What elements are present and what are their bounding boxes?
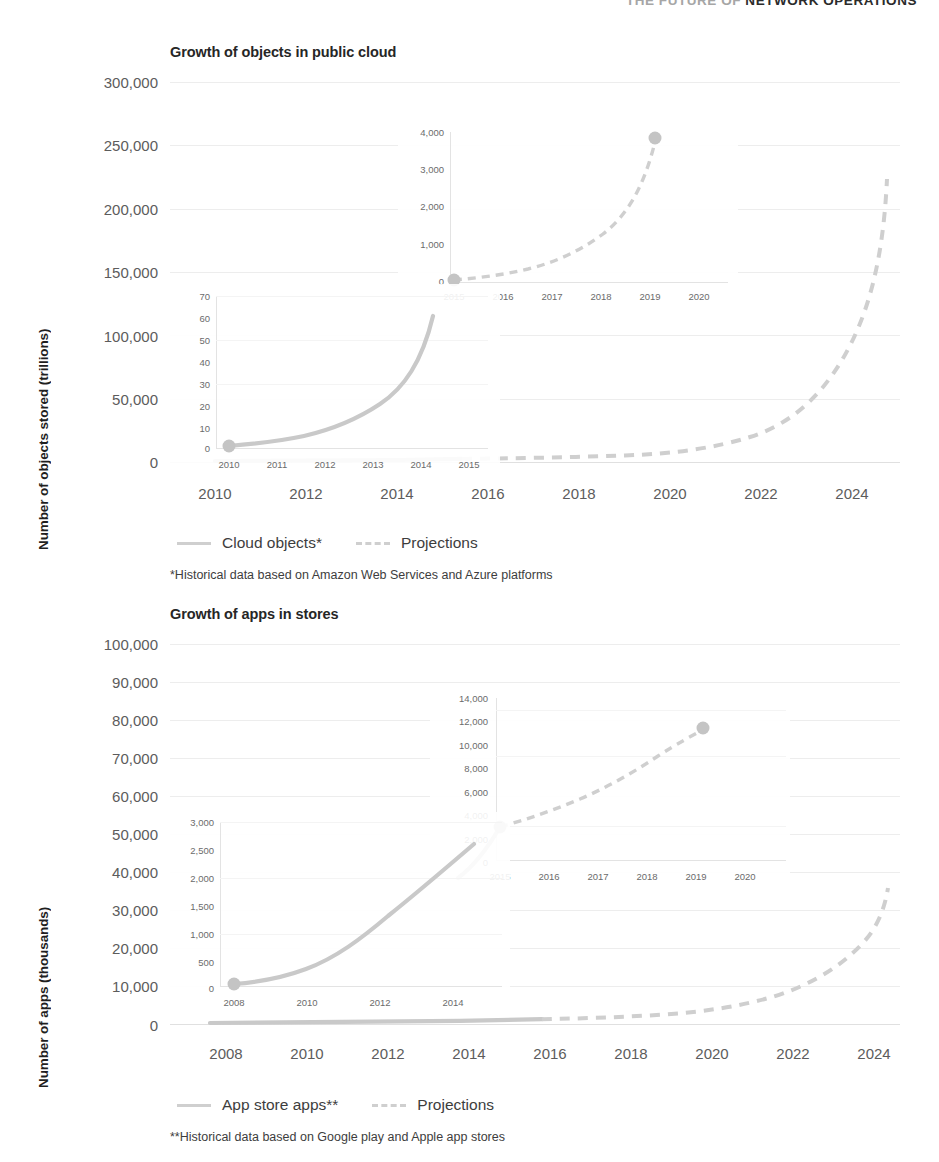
- chart-growth-of-apps: Growth of apps in stores Number of apps …: [0, 598, 939, 1162]
- chart1-legend-item-projections: Projections: [356, 534, 478, 552]
- chart1-inset-inner-marker-start: [223, 440, 236, 453]
- dashed-line-swatch-icon: [372, 1104, 406, 1107]
- chart1-inset-inner-svg: [170, 284, 500, 474]
- chart2-ytick: 60,000: [30, 789, 158, 804]
- chart2-inset-mid-dashed: [500, 730, 702, 827]
- solid-line-swatch-icon: [177, 542, 211, 545]
- chart2-xtick: 2010: [267, 1046, 347, 1061]
- chart1-inset-mid: 4,000 3,000 2,000 1,000 0 2015 2016 2017…: [398, 120, 738, 310]
- chart1-ytick: 50,000: [30, 392, 158, 407]
- dashed-line-swatch-icon: [356, 542, 390, 545]
- chart2-legend-label: Projections: [417, 1096, 494, 1114]
- chart2-xtick: 2022: [753, 1046, 833, 1061]
- chart2-dashed-series: [542, 888, 888, 1019]
- solid-line-swatch-icon: [177, 1104, 211, 1107]
- chart1-inset-mid-marker-end: [649, 132, 662, 145]
- chart2-ytick: 40,000: [30, 865, 158, 880]
- chart1-ytick: 250,000: [30, 138, 158, 153]
- infographic-page: THE FUTURE OF NETWORK OPERATIONS Growth …: [0, 0, 939, 1162]
- chart1-inset-mid-svg: [398, 120, 738, 310]
- chart2-ytick: 10,000: [30, 979, 158, 994]
- chart2-xtick: 2018: [591, 1046, 671, 1061]
- chart2-xtick: 2016: [510, 1046, 590, 1061]
- chart2-inset-inner-svg: [170, 812, 510, 1012]
- chart1-xtick: 2016: [448, 486, 528, 501]
- chart2-footnote: **Historical data based on Google play a…: [170, 1130, 505, 1144]
- chart1-ytick: 300,000: [30, 75, 158, 90]
- chart2-inset-mid-marker-end: [697, 722, 710, 735]
- chart1-inset-inner: 70 60 50 40 30 20 10 0 2010 2011 2012 20…: [170, 284, 500, 474]
- chart1-footnote: *Historical data based on Amazon Web Ser…: [170, 568, 553, 582]
- chart1-legend-label: Projections: [401, 534, 478, 552]
- chart1-legend-label: Cloud objects*: [222, 534, 322, 552]
- chart2-inset-inner-marker-start: [228, 978, 241, 991]
- chart2-inset-inner: 3,000 2,500 2,000 1,500 1,000 500 0 2008…: [170, 812, 510, 1012]
- chart2-legend-label: App store apps**: [222, 1096, 338, 1114]
- running-header: THE FUTURE OF NETWORK OPERATIONS: [0, 0, 939, 8]
- chart2-legend-item-projections: Projections: [372, 1096, 494, 1114]
- chart1-legend-item-cloud-objects: Cloud objects*: [177, 534, 322, 552]
- chart1-xtick: 2022: [721, 486, 801, 501]
- running-header-emphasis: NETWORK OPERATIONS: [745, 0, 917, 8]
- chart1-ytick: 200,000: [30, 202, 158, 217]
- chart2-ytick: 100,000: [30, 637, 158, 652]
- chart2-ytick: 0: [30, 1018, 158, 1033]
- chart2-xtick: 2014: [429, 1046, 509, 1061]
- chart2-title: Growth of apps in stores: [170, 606, 338, 622]
- chart1-ytick: 100,000: [30, 329, 158, 344]
- chart1-ytick: 150,000: [30, 265, 158, 280]
- chart2-ytick: 70,000: [30, 751, 158, 766]
- chart1-inset-mid-dashed: [454, 142, 655, 280]
- chart1-xtick: 2020: [630, 486, 710, 501]
- chart2-xtick: 2012: [348, 1046, 428, 1061]
- chart1-legend: Cloud objects* Projections: [177, 534, 512, 552]
- chart1-xtick: 2012: [266, 486, 346, 501]
- chart2-legend: App store apps** Projections: [177, 1096, 528, 1114]
- chart1-ytick: 0: [30, 455, 158, 470]
- chart2-solid-series: [210, 1019, 542, 1023]
- chart2-inset-inner-solid: [234, 844, 474, 984]
- chart2-ytick: 80,000: [30, 713, 158, 728]
- chart1-y-axis-title: Number of objects stored (trillions): [36, 270, 51, 550]
- chart1-xtick: 2024: [812, 486, 892, 501]
- chart2-xtick: 2024: [834, 1046, 914, 1061]
- running-header-prefix: THE FUTURE OF: [626, 0, 745, 8]
- chart1-xtick: 2014: [357, 486, 437, 501]
- chart2-xtick: 2020: [672, 1046, 752, 1061]
- chart2-ytick: 30,000: [30, 903, 158, 918]
- chart-growth-of-objects: Growth of objects in public cloud Number…: [0, 34, 939, 594]
- chart1-title: Growth of objects in public cloud: [170, 44, 396, 60]
- chart2-ytick: 90,000: [30, 675, 158, 690]
- chart2-ytick: 50,000: [30, 827, 158, 842]
- chart1-xtick: 2018: [539, 486, 619, 501]
- chart2-xtick: 2008: [186, 1046, 266, 1061]
- chart2-legend-item-app-store-apps: App store apps**: [177, 1096, 338, 1114]
- chart2-ytick: 20,000: [30, 941, 158, 956]
- chart1-xtick: 2010: [175, 486, 255, 501]
- chart1-inset-inner-solid: [229, 316, 433, 446]
